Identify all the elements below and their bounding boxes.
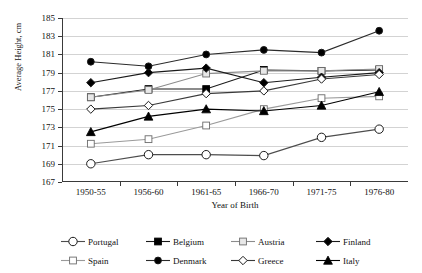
series-italy <box>86 87 383 135</box>
legend-marker-circle-open-icon <box>60 236 86 247</box>
data-point <box>203 122 210 129</box>
data-point <box>87 58 94 65</box>
x-tick-label: 1956-60 <box>134 187 164 197</box>
x-tick-mark <box>177 182 178 186</box>
y-tick-label: 179 <box>42 68 56 78</box>
x-tick-label: 1950-55 <box>76 187 106 197</box>
data-point <box>260 151 268 159</box>
x-axis-line <box>62 181 408 182</box>
x-tick-label: 1966-70 <box>249 187 279 197</box>
legend-label: Austria <box>258 237 285 247</box>
data-point <box>203 51 210 58</box>
legend-label: Belgium <box>173 237 204 247</box>
data-point <box>317 133 325 141</box>
x-tick-mark <box>293 182 294 186</box>
data-point <box>144 150 152 158</box>
legend-item-austria[interactable]: Austria <box>230 236 315 247</box>
y-tick-label: 169 <box>42 159 56 169</box>
series-portugal <box>87 125 384 168</box>
legend-marker-square-filled-icon <box>145 236 171 247</box>
data-point <box>260 87 268 95</box>
data-point <box>145 63 152 70</box>
legend-marker-triangle-filled-icon <box>315 255 341 266</box>
data-point <box>87 94 94 101</box>
legend-label: Greece <box>258 256 283 266</box>
data-point <box>260 67 267 74</box>
chart-legend: PortugalBelgiumAustriaFinlandSpainDenmar… <box>60 232 400 270</box>
data-point <box>260 78 268 86</box>
x-tick-mark <box>235 182 236 186</box>
x-axis-title: Year of Birth <box>62 200 408 210</box>
x-tick-label: 1971-75 <box>307 187 337 197</box>
series-line <box>91 31 379 67</box>
data-point <box>145 87 152 94</box>
data-point <box>87 105 95 113</box>
x-tick-mark <box>120 182 121 186</box>
series-line <box>91 129 379 164</box>
data-point <box>202 150 210 158</box>
legend-item-spain[interactable]: Spain <box>60 255 145 266</box>
legend-marker-circle-filled-icon <box>145 255 171 266</box>
legend-label: Finland <box>343 237 371 247</box>
legend-item-belgium[interactable]: Belgium <box>145 236 230 247</box>
series-line <box>91 70 379 97</box>
series-denmark <box>87 27 382 69</box>
y-tick-label: 177 <box>42 86 56 96</box>
legend-item-portugal[interactable]: Portugal <box>60 236 145 247</box>
y-tick-label: 167 <box>42 177 56 187</box>
legend-item-italy[interactable]: Italy <box>315 255 400 266</box>
legend-label: Spain <box>88 256 109 266</box>
data-point <box>144 101 152 109</box>
legend-label: Italy <box>343 256 360 266</box>
series-line <box>91 69 379 97</box>
x-tick-label: 1961-65 <box>191 187 221 197</box>
data-point <box>87 78 95 86</box>
legend-label: Denmark <box>173 256 207 266</box>
data-point <box>376 27 383 34</box>
data-point <box>260 46 267 53</box>
plot-area: 167169171173175177179181183185 1950-5519… <box>62 18 408 182</box>
legend-marker-diamond-filled-icon <box>315 236 341 247</box>
data-point <box>145 136 152 143</box>
legend-marker-square-white-icon <box>60 255 86 266</box>
series-layer <box>62 18 362 168</box>
y-axis-line <box>62 18 63 182</box>
legend-marker-diamond-open-icon <box>230 255 256 266</box>
y-tick-label: 171 <box>42 141 56 151</box>
data-point <box>318 49 325 56</box>
x-tick-mark <box>350 182 351 186</box>
y-tick-label: 181 <box>42 49 56 59</box>
legend-item-denmark[interactable]: Denmark <box>145 255 230 266</box>
legend-item-greece[interactable]: Greece <box>230 255 315 266</box>
data-point <box>375 125 383 133</box>
y-axis-title: Average Height, cm <box>13 0 23 127</box>
legend-item-finland[interactable]: Finland <box>315 236 400 247</box>
x-tick-label: 1976-80 <box>364 187 394 197</box>
line-chart: Average Height, cm 167169171173175177179… <box>0 0 422 273</box>
series-finland <box>87 64 384 87</box>
y-tick-label: 185 <box>42 13 56 23</box>
legend-marker-square-light-icon <box>230 236 256 247</box>
series-belgium <box>87 67 382 101</box>
y-tick-mark <box>58 182 62 183</box>
y-tick-label: 173 <box>42 122 56 132</box>
legend-label: Portugal <box>88 237 119 247</box>
data-point <box>87 140 94 147</box>
data-point <box>87 160 95 168</box>
y-tick-label: 183 <box>42 31 56 41</box>
y-tick-label: 175 <box>42 104 56 114</box>
